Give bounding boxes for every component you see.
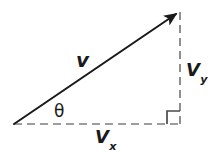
angle-theta-label: θ	[54, 103, 64, 120]
component-vx-subscript: x	[109, 140, 116, 152]
component-vx-label: Vx	[95, 128, 116, 150]
component-vy-label: Vy	[186, 61, 207, 83]
vector-magnitude-label: v	[76, 50, 89, 70]
vector-diagram: v θ Vx Vy	[0, 0, 216, 152]
vector-v-arrow	[14, 14, 176, 124]
right-angle-marker	[167, 111, 180, 124]
component-vy-subscript: y	[200, 73, 207, 86]
